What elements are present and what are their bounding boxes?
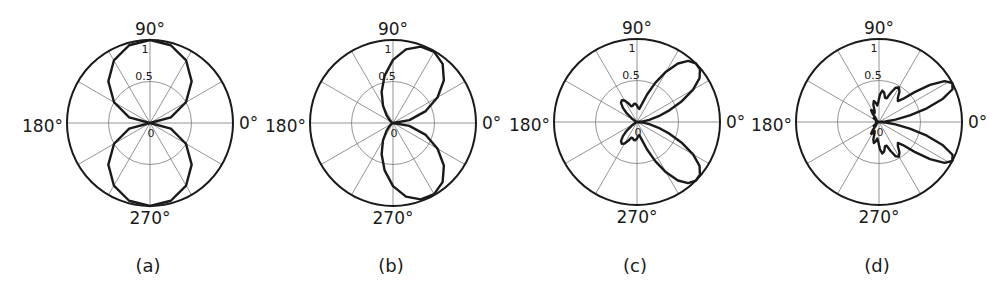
radial-label-half-b: 0.5 [378,70,396,83]
angle-label-180-d: 180° [751,115,792,135]
radial-label-one-a: 1 [142,43,149,56]
angle-label-0-b: 0° [482,113,501,133]
radial-label-half-a: 0.5 [135,70,153,83]
angle-label-0-c: 0° [726,112,745,132]
angle-label-90-a: 90° [135,19,165,39]
panel-caption-a: (a) [135,255,160,276]
radial-label-one-d: 1 [871,42,878,55]
panel-d: 00.5190°270°0°180°(d) [751,18,987,276]
panel-caption-c: (c) [623,255,647,276]
angle-label-90-b: 90° [378,19,408,39]
panel-caption-d: (d) [864,255,889,276]
angle-label-180-c: 180° [509,115,550,135]
angle-label-90-d: 90° [864,18,894,38]
radial-label-0-b: 0 [391,127,398,140]
radial-label-half-c: 0.5 [622,69,640,82]
radial-label-0-d: 0 [877,126,884,139]
radial-label-one-b: 1 [385,43,392,56]
panel-b: 00.5190°270°0°180°(b) [265,19,501,276]
polar-pattern-figure: 00.5190°270°0°180°(a) 00.5190°270°0°180°… [0,0,1008,293]
panel-c: 00.5190°270°0°180°(c) [509,18,745,276]
angle-label-270-b: 270° [373,208,414,228]
angle-label-180-a: 180° [22,116,63,136]
angle-label-0-d: 0° [968,112,987,132]
radial-label-one-c: 1 [629,42,636,55]
radial-label-half-d: 0.5 [864,69,882,82]
angle-label-270-c: 270° [617,207,658,227]
angle-label-180-b: 180° [265,116,306,136]
radial-label-0-c: 0 [635,126,642,139]
panel-caption-b: (b) [378,255,403,276]
angle-label-90-c: 90° [622,18,652,38]
radial-label-0-a: 0 [148,127,155,140]
panel-a: 00.5190°270°0°180°(a) [22,19,258,276]
angle-label-0-a: 0° [239,113,258,133]
angle-label-270-d: 270° [859,207,900,227]
angle-label-270-a: 270° [130,208,171,228]
